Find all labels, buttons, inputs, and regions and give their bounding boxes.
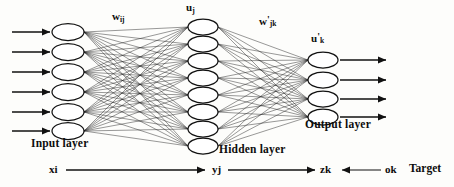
synapse-hid8-out4 (218, 117, 308, 146)
synapse-in1-hid1 (84, 27, 188, 32)
weight-symbol-w: w (112, 10, 120, 22)
synapse-in3-hid4 (84, 72, 188, 78)
neuron-hidden-7 (188, 121, 218, 137)
neuron-output-2 (308, 72, 338, 88)
net-input-label-output: u'k (311, 31, 324, 45)
neuron-hidden-4 (188, 70, 218, 86)
weight-symbol-w-prime: w (259, 15, 267, 27)
synapse-in6-hid1 (84, 27, 188, 131)
network-graphic (0, 0, 454, 187)
output-signal-arrows (340, 60, 386, 117)
layer-label-output: Output layer (305, 118, 371, 130)
axis-subscript-i: i (55, 163, 58, 175)
synapse-hid8-out1 (218, 60, 308, 146)
neuron-input-1 (52, 24, 84, 41)
synapse-hid7-out3 (218, 99, 308, 129)
synapse-in6-hid6 (84, 112, 188, 131)
axis-subscript-j: j (218, 163, 222, 175)
input-signal-arrows (12, 32, 50, 131)
axis-subscript-k-z: k (325, 163, 331, 175)
synapse-in3-hid5 (84, 72, 188, 95)
neuron-hidden-2 (188, 36, 218, 52)
neuron-hidden-5 (188, 87, 218, 103)
synapse-hid2-out2 (218, 44, 308, 80)
synapse-hid3-out1 (218, 60, 308, 61)
synapse-in6-hid8 (84, 131, 188, 146)
weight-label-hidden-output: w'jk (259, 14, 276, 28)
layer-label-hidden: Hidden layer (219, 143, 286, 155)
weight-subscript-jk: jk (270, 19, 277, 28)
axis-subscript-k-o: k (391, 163, 397, 175)
synapse-in3-hid3 (84, 61, 188, 72)
synapse-hid6-out1 (218, 60, 308, 112)
synapse-in2-hid5 (84, 52, 188, 95)
axis-label-o: ok (385, 163, 397, 175)
neuron-input-4 (52, 84, 84, 101)
synapse-hid2-out3 (218, 44, 308, 99)
neural-network-diagram: wij uj w'jk u'k Input layer Hidden layer… (0, 0, 454, 187)
synapse-hid1-out3 (218, 27, 308, 99)
synapse-in2-hid4 (84, 52, 188, 78)
neuron-output-3 (308, 91, 338, 107)
node-group-output-layer (308, 52, 338, 125)
weight-label-input-hidden: wij (112, 10, 125, 24)
node-group-hidden-layer (188, 19, 218, 154)
synapse-hid4-out1 (218, 60, 308, 78)
synapse-hid3-out3 (218, 61, 308, 99)
node-group-input-layer (52, 24, 84, 140)
axis-label-z: zk (320, 163, 331, 175)
neuron-hidden-3 (188, 53, 218, 69)
net-input-subscript-k: k (320, 36, 324, 45)
layer-label-input: Input layer (31, 137, 88, 149)
synapse-group-hidden-to-output (218, 27, 308, 146)
neuron-output-1 (308, 52, 338, 68)
neuron-input-5 (52, 104, 84, 121)
synapse-hid3-out4 (218, 61, 308, 117)
axis-label-x: xi (49, 163, 58, 175)
neuron-input-3 (52, 64, 84, 81)
synapse-hid4-out2 (218, 78, 308, 80)
synapse-in6-hid7 (84, 129, 188, 131)
synapse-hid6-out3 (218, 99, 308, 112)
neuron-hidden-1 (188, 19, 218, 35)
neuron-hidden-6 (188, 104, 218, 120)
synapse-in1-hid4 (84, 32, 188, 78)
synapse-group-input-to-hidden (84, 27, 188, 146)
axis-label-target: Target (409, 162, 441, 174)
neuron-hidden-8 (188, 138, 218, 154)
net-input-subscript-j: j (192, 6, 195, 15)
synapse-in4-hid5 (84, 92, 188, 95)
weight-subscript-ij: ij (120, 15, 125, 24)
axis-label-y: yj (212, 163, 221, 175)
synapse-hid4-out4 (218, 78, 308, 117)
net-input-label-hidden: uj (186, 1, 195, 15)
neuron-input-2 (52, 44, 84, 61)
